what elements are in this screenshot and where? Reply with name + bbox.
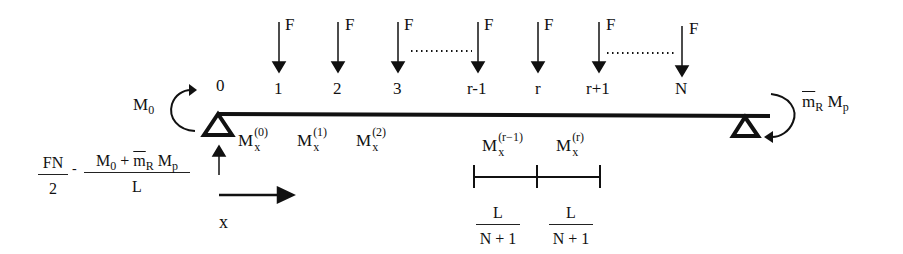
node-label-0: 0 [216,77,225,94]
section-moment-2: M(2)x [356,132,401,152]
force-arrow-2-icon [332,22,344,72]
force-label-r+1: F [606,16,615,33]
segment-length-1: L N + 1 [476,205,520,247]
left-moment-arrow-icon [171,84,197,131]
node-label-r+1: r+1 [586,80,610,97]
x-direction-arrow-icon [219,188,293,202]
force-label-r: F [544,16,553,33]
x-axis-label: x [219,213,228,231]
force-arrows [273,22,688,76]
section-moment-1: M(1)x [297,132,342,152]
force-label-3: F [404,16,413,33]
ellipsis-dots [411,51,674,53]
reaction-arrow-icon [213,146,225,175]
right-moment-arrow-icon [764,94,794,143]
node-label-2: 2 [333,80,342,97]
segment-dimension-lines [474,165,600,188]
force-arrow-N-icon [676,26,688,76]
reaction-term1: FN 2 [38,155,68,197]
force-label-2: F [345,16,354,33]
right-moment-label: mR Mp [802,93,849,110]
left-moment-label: M0 [133,96,154,113]
force-label-r-1: F [484,16,493,33]
right-pin-support-icon [733,117,758,136]
section-moment-r-1: M(r−1)x [482,137,541,157]
beam [218,114,770,116]
node-label-r-1: r-1 [467,80,486,97]
force-arrow-3-icon [392,22,404,72]
force-arrow-1-icon [273,22,285,72]
force-arrow-r-icon [532,22,544,72]
node-label-3: 3 [393,80,402,97]
force-label-1: F [285,16,294,33]
force-arrow-r-1-icon [472,22,484,72]
section-moment-0: M(0)x [238,132,283,152]
left-pin-support-icon [204,114,232,135]
node-label-1: 1 [274,80,283,97]
force-label-N: F [689,20,698,37]
reaction-term2: M0 + mR Mp L [84,153,190,195]
node-label-N: N [675,80,687,97]
force-arrow-r+1-icon [593,22,605,72]
node-label-r: r [535,80,541,97]
reaction-minus: - [72,162,77,176]
segment-length-2: L N + 1 [549,205,593,247]
section-moment-r: M(r)x [556,137,601,157]
beam-diagram-graphics [0,0,903,254]
